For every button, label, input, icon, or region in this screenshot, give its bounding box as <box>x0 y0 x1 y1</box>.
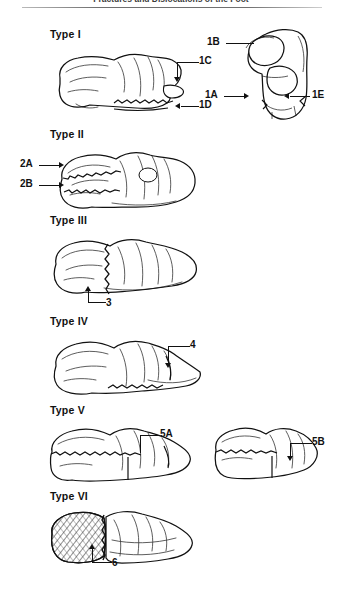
callout-5a-leader <box>140 435 160 436</box>
callout-4-leader-drop <box>168 346 169 364</box>
callout-1a-arrow <box>244 93 249 99</box>
callout-1d-arrow <box>175 103 180 109</box>
callout-1c-leader <box>177 62 199 63</box>
bone-type1-superior <box>236 26 320 122</box>
bone-type1-lateral <box>52 48 192 118</box>
type-label-6: Type VI <box>50 490 88 502</box>
bone-type6-lateral <box>44 508 196 570</box>
callout-5a-leader-drop <box>140 435 141 453</box>
callout-2a-arrow <box>59 162 64 168</box>
callout-3-arrow <box>85 286 91 291</box>
type-label-1: Type I <box>50 28 81 40</box>
callout-5b-arrow <box>287 456 293 461</box>
running-head: Fractures and Dislocations of the Foot <box>0 0 342 2</box>
callout-2a-leader <box>39 165 59 166</box>
callout-6: 6 <box>112 557 118 568</box>
callout-6-arrow <box>89 544 95 549</box>
callout-4: 4 <box>190 339 196 350</box>
callout-1a: 1A <box>205 89 218 100</box>
callout-3-leader <box>88 302 106 303</box>
header-rule <box>22 7 322 8</box>
callout-2a: 2A <box>20 158 33 169</box>
callout-1b: 1B <box>207 36 220 47</box>
callout-2b-leader <box>39 185 59 186</box>
callout-1c: 1C <box>199 55 212 66</box>
type-label-2: Type II <box>50 128 84 140</box>
callout-5b-leader <box>290 443 312 444</box>
callout-4-arrow <box>165 363 171 368</box>
callout-3-leader-rise <box>88 291 89 303</box>
callout-5a: 5A <box>160 428 173 439</box>
callout-2b: 2B <box>20 178 33 189</box>
callout-1e: 1E <box>312 89 324 100</box>
figure-page: Fractures and Dislocations of the Foot T… <box>0 0 342 589</box>
callout-1e-leader <box>290 96 310 97</box>
callout-1c-arrow <box>174 77 180 82</box>
callout-6-leader-rise <box>92 549 93 563</box>
callout-1d-leader <box>181 106 199 107</box>
type-label-3: Type III <box>50 214 87 226</box>
callout-2b-arrow <box>59 182 64 188</box>
type-label-5: Type V <box>50 404 85 416</box>
type-label-4: Type IV <box>50 315 88 327</box>
bone-type2-lateral <box>52 147 200 219</box>
callout-3: 3 <box>106 297 112 308</box>
callout-1a-leader <box>224 96 244 97</box>
callout-5b-leader-drop <box>290 443 291 457</box>
bone-type5-lateral-right <box>210 424 320 488</box>
callout-6-leader <box>92 562 112 563</box>
callout-5b: 5B <box>312 436 325 447</box>
bone-type3-lateral <box>48 234 200 304</box>
callout-1e-arrow <box>284 93 289 99</box>
callout-1d: 1D <box>199 99 212 110</box>
callout-1c-leader-drop <box>177 62 178 78</box>
callout-4-leader <box>168 346 190 347</box>
callout-1b-leader <box>226 43 254 44</box>
